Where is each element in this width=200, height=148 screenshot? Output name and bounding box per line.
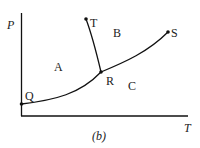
point-label-q: Q — [25, 89, 34, 103]
region-label-c: C — [128, 79, 136, 93]
point-t — [84, 17, 88, 21]
x-axis-label: T — [184, 121, 192, 135]
point-label-t: T — [90, 16, 98, 30]
point-label-s: S — [171, 26, 178, 40]
caption: (b) — [92, 129, 106, 143]
region-label-b: B — [113, 26, 121, 40]
phase-diagram: P T Q R S T A B C (b) — [0, 0, 200, 148]
point-label-r: R — [106, 74, 114, 88]
point-q — [20, 102, 24, 106]
region-label-a: A — [54, 60, 63, 74]
point-s — [166, 30, 170, 34]
y-axis-label: P — [6, 18, 15, 32]
curve-r-s — [101, 32, 168, 72]
point-r — [99, 70, 103, 74]
